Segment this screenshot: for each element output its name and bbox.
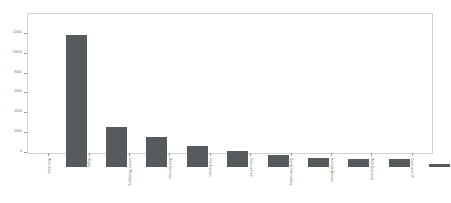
x-tick-label: Social Networking — [289, 158, 293, 185]
x-tick-mark — [129, 153, 130, 156]
y-tick-label: 12000 — [13, 30, 22, 34]
x-tick-label: Web Services — [167, 158, 171, 179]
x-tick-label: Skype — [87, 158, 91, 167]
x-tick-mark — [371, 153, 372, 156]
x-axis: Web SitesSkypeInstant MessagingWeb Servi… — [28, 153, 432, 203]
y-tick-label: 2000 — [15, 129, 23, 133]
y-axis: 020004000600080001000012000 — [0, 13, 27, 154]
bars-layer — [56, 28, 451, 167]
x-tick-mark — [210, 153, 211, 156]
x-tick-mark — [48, 153, 49, 156]
x-tick-label: File Transfer — [208, 158, 212, 177]
bar — [66, 35, 87, 167]
x-tick-mark — [291, 153, 292, 156]
x-tick-label: Instant Messaging — [127, 158, 131, 186]
x-tick-label: Peer-to-Peer — [248, 158, 252, 177]
x-tick-label: Remote Access — [329, 158, 333, 181]
bar-chart: 020004000600080001000012000 Web SitesSky… — [0, 0, 451, 203]
y-tick-label: 8000 — [15, 70, 23, 74]
x-tick-label: Voice over IP — [410, 158, 414, 178]
x-tick-mark — [169, 153, 170, 156]
y-tick-label: 10000 — [13, 50, 22, 54]
bar — [429, 164, 450, 167]
x-tick-label: Web Sites — [46, 158, 50, 173]
x-tick-mark — [412, 153, 413, 156]
x-tick-label: Web Browsing — [369, 158, 373, 180]
x-tick-mark — [250, 153, 251, 156]
y-tick-label: 0 — [20, 149, 22, 153]
y-tick-label: 6000 — [15, 89, 23, 93]
y-tick-label: 4000 — [15, 109, 23, 113]
x-tick-mark — [89, 153, 90, 156]
plot-area — [27, 13, 433, 154]
x-tick-mark — [331, 153, 332, 156]
